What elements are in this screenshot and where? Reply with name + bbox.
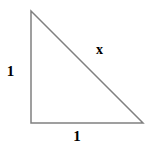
- right-triangle-figure: 1 1 x: [0, 0, 151, 148]
- horizontal-leg-label: 1: [69, 129, 85, 144]
- triangle-outline: [31, 11, 143, 123]
- vertical-leg-label: 1: [3, 64, 18, 79]
- hypotenuse-label: x: [92, 43, 107, 57]
- triangle-shape: [0, 0, 151, 148]
